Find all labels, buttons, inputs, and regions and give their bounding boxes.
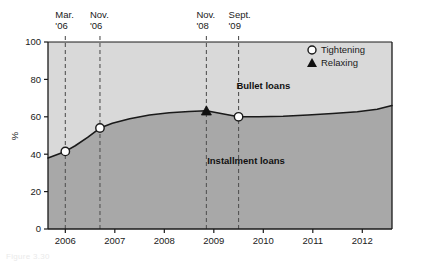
area-label-bullet-loans: Bullet loans [236,80,290,91]
x-tick-label-2006: 2006 [55,235,76,246]
marker-tightening-4 [234,113,242,121]
marker-tightening-1 [61,147,69,155]
event-label-year: '09 [229,20,241,31]
x-tick-label-2009: 2009 [203,235,224,246]
event-label-year: '06 [90,20,102,31]
y-tick-label-60: 60 [30,111,41,122]
x-tick-label-2007: 2007 [104,235,125,246]
x-tick-label-2011: 2011 [303,235,323,246]
y-tick-label-40: 40 [30,149,41,160]
y-tick-label-0: 0 [36,223,41,234]
x-tick-label-2010: 2010 [253,235,274,246]
figure-container: 020406080100 200620072008200920102011201… [0,0,422,264]
x-tick-label-2012: 2012 [352,235,373,246]
y-tick-label-100: 100 [25,36,41,47]
figure-caption: Figure 3.30 [6,252,50,261]
y-tick-label-20: 20 [30,186,41,197]
x-tick-label-2008: 2008 [154,235,175,246]
marker-tightening-2 [96,124,104,132]
event-label-month: Mar. [55,9,73,20]
y-axis-title: % [9,131,20,140]
y-tick-label-80: 80 [30,74,41,85]
event-label-month: Sept. [229,9,251,20]
event-label-month: Nov. [196,9,215,20]
legend-label-tightening: Tightening [321,44,365,55]
event-label-year: '06 [55,20,67,31]
bullet-installment-loans-area-chart: 020406080100 200620072008200920102011201… [0,0,422,264]
legend-label-relaxing: Relaxing [321,57,358,68]
legend-open-circle-icon [308,46,316,54]
area-label-installment-loans: Installment loans [207,155,285,166]
event-label-month: Nov. [90,9,109,20]
event-label-year: '08 [196,20,208,31]
